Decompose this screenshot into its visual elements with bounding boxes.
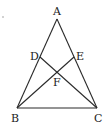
stray-dot [2, 16, 4, 18]
label-d: D [30, 50, 39, 63]
label-c: C [94, 112, 102, 125]
triangle-diagram: A D E F B C [0, 0, 106, 126]
label-e: E [76, 50, 84, 63]
segment-cd [40, 57, 97, 108]
label-f: F [53, 76, 61, 89]
segment-ab [17, 19, 57, 108]
segment-ac [57, 19, 97, 108]
segment-be [17, 57, 74, 108]
label-a: A [52, 5, 62, 18]
label-b: B [11, 112, 19, 125]
